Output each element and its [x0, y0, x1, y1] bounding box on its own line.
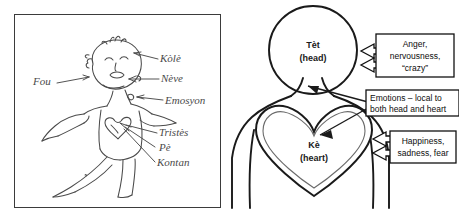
shared-callout-line-2: both head and heart: [370, 104, 447, 114]
head-circle: [269, 6, 357, 94]
heart-label-english: (heart): [300, 153, 328, 163]
body-diagram: Tèt (head) Kè (heart) Anger, nervousness…: [228, 0, 459, 222]
arm-crease-left: [250, 130, 254, 208]
head-callout-line-1: Anger,: [403, 39, 428, 49]
diagram-panel: Tèt (head) Kè (heart) Anger, nervousness…: [228, 0, 459, 222]
sketch-label-tristes: Tristès: [159, 126, 188, 138]
head-callout-line-2: nervousness,: [390, 51, 441, 61]
heart-callout-line-2: sadness, fear: [397, 148, 448, 158]
sketch-label-emosyon: Emosyon: [164, 94, 206, 106]
sketch-label-fou: Fou: [32, 75, 51, 87]
head-callout-line-3: “crazy”: [402, 63, 428, 73]
sketch-label-kole: Kòlè: [159, 52, 181, 64]
heart-shape: [256, 106, 372, 196]
sketch-label-pe: Pè: [158, 141, 171, 153]
head-label-english: (head): [300, 53, 327, 63]
head-label-creole: Tèt: [306, 40, 320, 50]
sketch-drawing: Fou Kòlè Nève Emosyon Tristès Pè Kontan: [15, 15, 222, 209]
shared-callout-line-1: Emotions – local to: [370, 93, 442, 103]
sketch-panel: Fou Kòlè Nève Emosyon Tristès Pè Kontan: [14, 14, 221, 208]
heart-callout-line-1: Happiness,: [402, 136, 445, 146]
figure-root: Fou Kòlè Nève Emosyon Tristès Pè Kontan …: [0, 0, 459, 222]
sketch-label-neve: Nève: [160, 72, 183, 84]
shared-arrow-to-head-tip: [308, 86, 319, 94]
sketch-label-kontan: Kontan: [156, 156, 190, 168]
heart-label-creole: Kè: [308, 140, 320, 150]
